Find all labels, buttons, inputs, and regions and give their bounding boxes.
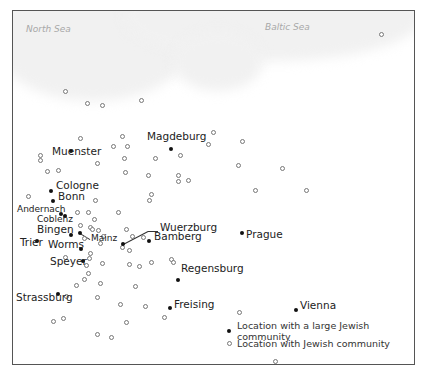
city-label: Magdeburg [147, 131, 206, 142]
community-marker-icon [100, 261, 105, 266]
community-marker-icon [123, 170, 128, 175]
community-marker-icon [98, 281, 103, 286]
community-marker-icon [116, 210, 121, 215]
community-marker-icon [149, 192, 154, 197]
community-marker-icon [45, 169, 50, 174]
community-marker-icon [87, 256, 92, 261]
community-marker-icon [74, 283, 79, 288]
community-marker-icon [139, 98, 144, 103]
community-marker-icon [93, 198, 98, 203]
city-label: Mainz [91, 234, 117, 243]
community-marker-icon [95, 295, 100, 300]
city-label: Trier [20, 237, 43, 248]
sea-label: Baltic Sea [265, 22, 310, 32]
city-label: Muenster [52, 146, 101, 157]
community-marker-icon [78, 136, 83, 141]
community-marker-icon [56, 168, 61, 173]
community-marker-icon [149, 260, 154, 265]
community-marker-icon [162, 315, 167, 320]
community-marker-icon [211, 130, 216, 135]
community-marker-icon [63, 89, 68, 94]
sea-label: North Sea [26, 24, 71, 34]
community-marker-icon [273, 359, 278, 364]
community-marker-icon [86, 210, 91, 215]
community-marker-icon [178, 153, 183, 158]
community-marker-icon [26, 194, 31, 199]
legend-small-label: Location with Jewish community [237, 338, 390, 349]
community-marker-icon [85, 101, 90, 106]
community-marker-icon [379, 32, 384, 37]
city-label: Speyer [50, 256, 87, 267]
community-marker-icon [153, 156, 158, 161]
community-marker-icon [120, 134, 125, 139]
community-marker-icon [130, 234, 135, 239]
land-shading [173, 31, 263, 91]
community-marker-icon [280, 166, 285, 171]
community-marker-icon [51, 319, 56, 324]
large-community-marker-icon [294, 308, 298, 312]
large-community-marker-icon [121, 242, 125, 246]
city-label: Vienna [300, 300, 336, 311]
community-marker-icon [95, 161, 100, 166]
community-marker-icon [90, 227, 95, 232]
city-label: Freising [174, 299, 214, 310]
community-marker-icon [304, 188, 309, 193]
community-marker-icon [171, 260, 176, 265]
legend: Location with a large Jewish community L… [224, 324, 425, 350]
community-marker-icon [176, 173, 181, 178]
community-marker-icon [75, 210, 80, 215]
city-label: Andernach [17, 205, 66, 214]
community-marker-icon [124, 227, 129, 232]
large-community-marker-icon [49, 189, 53, 193]
large-community-marker-icon [51, 199, 55, 203]
community-marker-icon [86, 271, 91, 276]
community-marker-icon [127, 248, 132, 253]
large-community-marker-icon [176, 278, 180, 282]
large-community-marker-icon [78, 231, 82, 235]
community-marker-icon [78, 223, 83, 228]
community-marker-icon [38, 158, 43, 163]
community-marker-icon [122, 156, 127, 161]
city-label: Bamberg [154, 231, 202, 242]
community-marker-icon [111, 144, 116, 149]
city-label: Bingen [37, 224, 74, 235]
community-marker-icon [206, 142, 211, 147]
city-label: Regensburg [181, 263, 244, 274]
community-marker-icon [141, 235, 146, 240]
community-marker-icon [147, 198, 152, 203]
community-marker-icon [109, 335, 114, 340]
community-icon [227, 341, 232, 346]
large-community-marker-icon [168, 306, 172, 310]
city-label: Prague [246, 229, 283, 240]
city-label: Cologne [56, 180, 99, 191]
large-community-icon [227, 329, 231, 333]
community-marker-icon [186, 178, 191, 183]
community-marker-icon [127, 262, 132, 267]
community-marker-icon [137, 264, 142, 269]
community-marker-icon [100, 103, 105, 108]
large-community-marker-icon [169, 147, 173, 151]
community-marker-icon [125, 144, 130, 149]
community-marker-icon [82, 277, 87, 282]
community-marker-icon [253, 188, 258, 193]
community-marker-icon [95, 332, 100, 337]
legend-large: Location with a large Jewish community [224, 324, 425, 337]
community-marker-icon [146, 173, 151, 178]
community-marker-icon [61, 316, 66, 321]
community-marker-icon [237, 310, 242, 315]
community-marker-icon [240, 139, 245, 144]
community-marker-icon [133, 284, 138, 289]
community-marker-icon [143, 304, 148, 309]
community-marker-icon [236, 163, 241, 168]
community-marker-icon [118, 302, 123, 307]
city-label: Strassburg [16, 292, 73, 303]
large-community-marker-icon [240, 231, 244, 235]
city-label: Bonn [58, 191, 85, 202]
community-marker-icon [176, 179, 181, 184]
community-marker-icon [124, 320, 129, 325]
city-label: Worms [48, 239, 84, 250]
large-community-marker-icon [147, 239, 151, 243]
community-marker-icon [92, 217, 97, 222]
